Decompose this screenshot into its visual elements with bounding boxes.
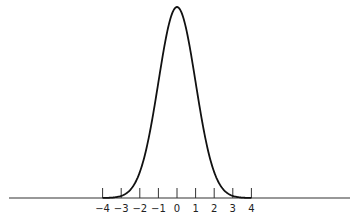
normal-curve-chart: −4−3−2−101234 (0, 0, 357, 216)
x-axis-ticks: −4−3−2−101234 (95, 188, 254, 214)
x-tick-label: 2 (211, 203, 217, 214)
x-tick-label: 3 (230, 203, 236, 214)
x-tick-label: −2 (132, 203, 147, 214)
x-tick-label: 0 (174, 203, 180, 214)
x-tick-label: 4 (248, 203, 254, 214)
x-tick-label: −1 (151, 203, 166, 214)
x-tick-label: −4 (95, 203, 110, 214)
bell-curve (103, 7, 252, 198)
x-tick-label: −3 (114, 203, 129, 214)
x-tick-label: 1 (192, 203, 198, 214)
